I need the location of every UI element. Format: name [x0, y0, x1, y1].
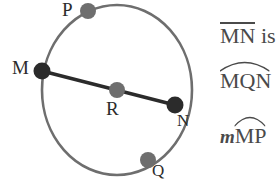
segment-mn-overline-text: MN	[220, 22, 255, 47]
figure-root: P M R N Q MN is MQN m MP	[0, 0, 279, 181]
arc-mqn-text: MQN	[220, 68, 271, 93]
circle-diagram: P M R N Q	[0, 0, 200, 181]
annotation-arc-mqn: MQN	[220, 70, 271, 92]
point-label-q: Q	[152, 162, 164, 179]
point-label-n: N	[177, 112, 189, 129]
arc-mqn-wrapper: MQN	[220, 70, 271, 92]
annotation-segment-mn: MN is	[220, 22, 276, 47]
measure-prefix-m: m	[220, 126, 235, 147]
point-r-dot	[109, 82, 125, 98]
annotation-panel: MN is MQN m MP	[218, 0, 279, 181]
point-label-r: R	[106, 99, 119, 118]
segment-mn-trailing-text: is	[255, 23, 275, 48]
annotation-measure-arc-mp: m MP	[220, 125, 267, 147]
arc-symbol-icon	[234, 114, 266, 126]
point-m-dot	[34, 63, 51, 80]
arc-symbol-icon	[219, 59, 270, 71]
point-label-m: M	[12, 58, 29, 77]
point-label-p: P	[62, 0, 73, 19]
arc-mp-text: MP	[235, 123, 267, 148]
point-p-dot	[80, 3, 96, 19]
arc-mp-wrapper: MP	[235, 125, 267, 147]
